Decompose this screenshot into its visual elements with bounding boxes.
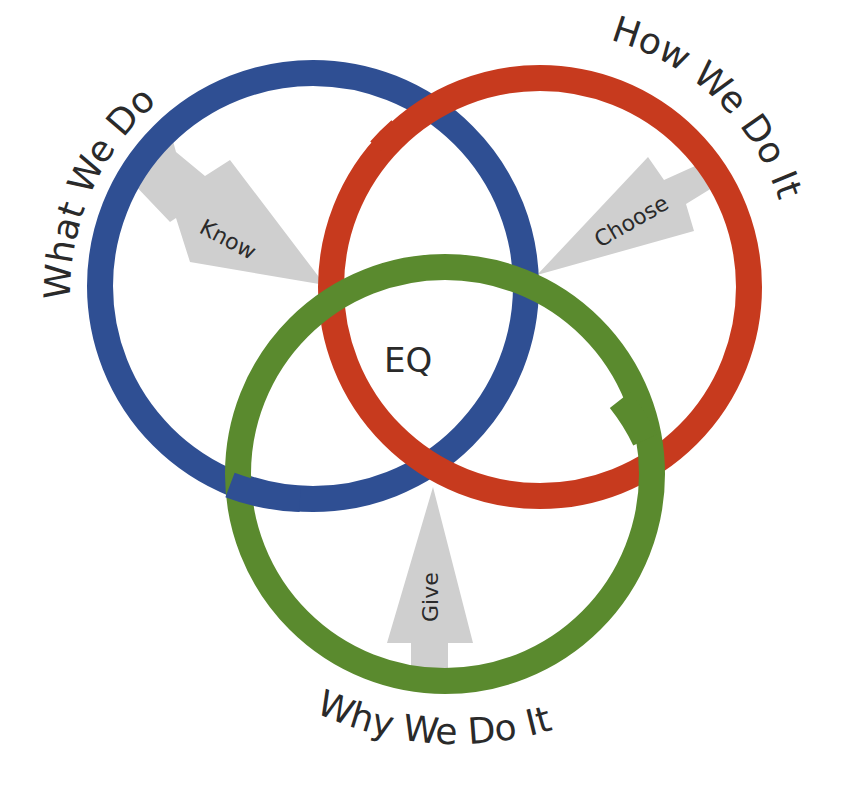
- what-we-do-circle-overlap: [230, 485, 300, 499]
- eq-center-label: EQ: [384, 340, 432, 380]
- give-label: Give: [418, 572, 443, 622]
- what-we-do-circle: [100, 73, 526, 499]
- eq-venn-diagram: Know Choose Give EQ What We Do How We Do…: [0, 0, 850, 800]
- how-we-do-it-circle-overlap: [380, 130, 400, 150]
